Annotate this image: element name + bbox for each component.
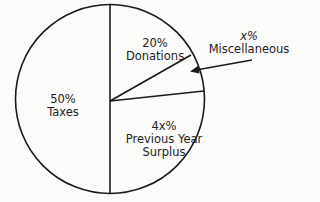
misc-name: Miscellaneous	[208, 43, 290, 56]
label-miscellaneous: x% Miscellaneous	[208, 30, 290, 56]
surplus-name-line2: Surplus	[114, 146, 214, 159]
callout-arrow-head	[190, 66, 200, 74]
donations-name: Donations	[115, 50, 195, 63]
label-donations: 20% Donations	[115, 37, 195, 63]
label-surplus: 4x% Previous Year Surplus	[114, 120, 214, 159]
callout-arrow-line	[196, 60, 252, 70]
taxes-name: Taxes	[40, 106, 86, 119]
label-taxes: 50% Taxes	[40, 93, 86, 119]
